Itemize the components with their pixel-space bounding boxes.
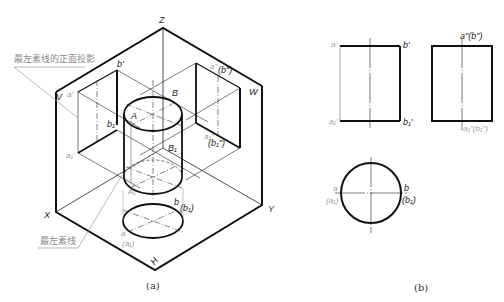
caption-b: (b) — [414, 282, 428, 293]
plane-v-label: V — [56, 92, 63, 102]
axis-x-label: X — [43, 210, 51, 220]
label-b1-prime: b₁' — [107, 119, 117, 129]
w-plane-projection — [140, 63, 240, 180]
front-label-a-prime: a' — [331, 40, 337, 49]
top-label-a1: (a₁) — [326, 196, 339, 205]
top-label-b1: (b₁) — [402, 195, 416, 205]
figure-a: Z X Y V W H a' b' b₁' a₁' A B B₁ A₁ a" (… — [14, 15, 275, 291]
label-a: a — [121, 229, 126, 238]
label-a-prime: a' — [67, 90, 73, 99]
label-B1: B₁ — [168, 143, 177, 153]
side-label-bottom: a₁"(b₁") — [463, 124, 488, 133]
axis-y-label: Y — [268, 204, 275, 214]
cylinder — [124, 80, 182, 200]
side-label-top: a"(b") — [460, 31, 482, 41]
front-label-b1-prime: b₁' — [403, 117, 413, 127]
front-label-b-prime: b' — [403, 40, 410, 50]
label-B: B — [172, 88, 178, 98]
front-view — [340, 38, 400, 128]
annotation-leftmost-line: 最左素线 — [40, 235, 76, 246]
annotation-front-projection-leftmost-line: 最左素线的正面投影 — [14, 53, 95, 64]
label-a1-prime: a₁' — [66, 151, 75, 160]
axis-z-label: Z — [158, 15, 165, 25]
label-b: b — [174, 197, 179, 207]
label-A: A — [130, 111, 137, 121]
figure-b: a' b' a₁' b₁' a"(b") a₁"(b₁") a (a₁) b (… — [326, 31, 492, 293]
label-b1-dprime: (b₁") — [208, 138, 225, 148]
plane-h-label: H — [148, 255, 160, 267]
label-b-prime: b' — [117, 59, 124, 69]
top-label-b: b — [404, 183, 409, 193]
side-view — [432, 38, 492, 130]
label-b-dprime: (b") — [218, 65, 232, 75]
label-A1: A₁ — [127, 187, 136, 196]
label-b1: (b₁) — [180, 203, 194, 213]
top-label-a: a — [333, 184, 338, 193]
caption-a: (a) — [146, 280, 160, 291]
top-view — [335, 157, 407, 233]
label-a1: (a₁) — [122, 239, 135, 248]
projection-diagram: Z X Y V W H a' b' b₁' a₁' A B B₁ A₁ a" (… — [0, 0, 504, 302]
plane-w-label: W — [249, 87, 259, 97]
front-label-a1-prime: a₁' — [329, 117, 338, 126]
v-plane-projection — [78, 70, 208, 188]
